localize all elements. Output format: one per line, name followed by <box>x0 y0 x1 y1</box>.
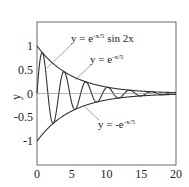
leader-damped-sine <box>47 44 72 68</box>
y-tick-label: -1 <box>23 134 33 148</box>
x-tick-label: 15 <box>135 167 147 181</box>
annotation-damped-sine: y = e-x/5 sin 2x <box>71 32 134 44</box>
x-tick-label: 20 <box>170 167 182 181</box>
y-axis-label: y <box>9 94 23 100</box>
x-tick-label: 0 <box>34 167 40 181</box>
annotation-lower-envelope: y = -e-x/5 <box>98 118 136 130</box>
y-tick-label: 0.5 <box>18 63 33 77</box>
x-tick-label: 5 <box>69 167 75 181</box>
y-tick-label: -0.5 <box>14 110 33 124</box>
leader-upper-envelope <box>75 65 91 80</box>
leader-lower-envelope <box>85 107 99 120</box>
annotation-upper-envelope: y = e-x/5 <box>90 53 124 65</box>
y-tick-label: 1 <box>27 39 33 53</box>
x-tick-label: 10 <box>101 167 113 181</box>
damped-sine-chart: 0510152010.50-0.5-1 y y = e-x/5 sin 2x y… <box>0 0 189 187</box>
y-tick-label: 0 <box>27 87 33 101</box>
